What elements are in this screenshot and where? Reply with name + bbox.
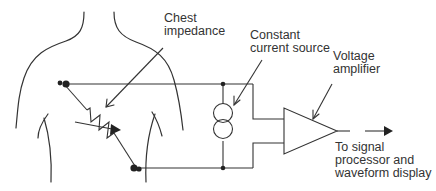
top-electrode-lead [64, 84, 87, 110]
voltage-amplifier-label: Voltage amplifier [333, 50, 380, 76]
amp-input-top-wire [253, 84, 284, 119]
variable-arrow-head [110, 124, 121, 135]
current-source-pointer [234, 60, 262, 105]
right-arm-inner-outline [152, 112, 162, 136]
voltage-amplifier-triangle [284, 108, 337, 154]
chest-impedance-label: Chest impedance [164, 12, 225, 38]
top-electrode [62, 80, 69, 87]
output-destination-label: To signal processor and waveform display [335, 141, 432, 180]
neck-left-outline [16, 12, 84, 128]
amp-input-bottom-wire [253, 143, 284, 168]
top-junction-dot [221, 82, 226, 87]
bottom-electrode [130, 164, 137, 171]
chest-impedance-pointer [106, 48, 163, 107]
bottom-electrode-lead [114, 133, 135, 166]
bioimpedance-diagram: Chest impedance Constant current source … [0, 0, 436, 191]
constant-current-source-label: Constant current source [250, 29, 330, 55]
right-side-outline [146, 114, 155, 182]
amplifier-pointer [313, 84, 332, 119]
top-electrode-small [58, 81, 63, 86]
bottom-junction-dot [221, 166, 226, 171]
variable-arrow-shaft [75, 122, 112, 129]
left-side-outline [44, 118, 51, 182]
bottom-electrode-small [136, 166, 141, 171]
output-arrow-head [384, 126, 393, 136]
chest-impedance-resistor [87, 108, 114, 138]
